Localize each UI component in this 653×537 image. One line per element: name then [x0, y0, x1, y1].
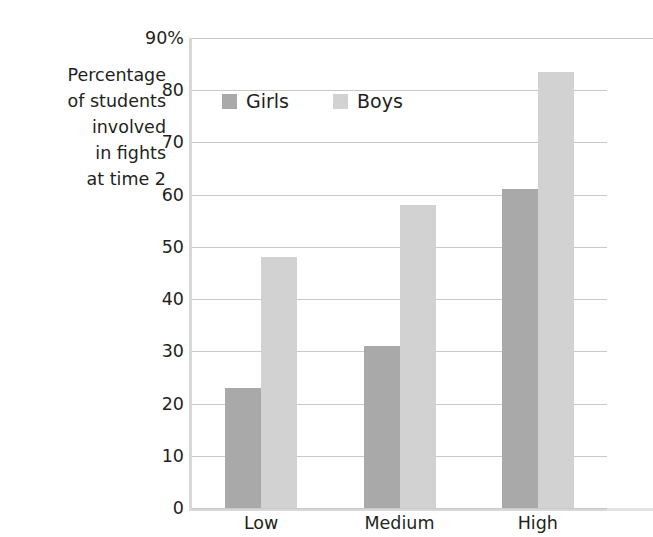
- legend-swatch-icon-boys: [333, 94, 348, 109]
- y-tick-label: 10: [122, 447, 184, 465]
- gridline: [192, 508, 607, 509]
- x-axis-tick-labels: LowMediumHigh: [192, 512, 607, 537]
- bar-medium-boys: [400, 205, 436, 508]
- x-tick-label-medium: Medium: [330, 512, 468, 534]
- y-tick-label: 30: [122, 342, 184, 360]
- bar-low-boys: [261, 257, 297, 508]
- y-tick-label: 0: [122, 499, 184, 517]
- legend-item-boys: Boys: [333, 92, 403, 111]
- legend-label-girls: Girls: [246, 92, 289, 111]
- y-tick-label: 70: [122, 133, 184, 151]
- y-tick-label: 40: [122, 290, 184, 308]
- y-tick-label: 90%: [122, 29, 184, 47]
- y-tick-label: 50: [122, 238, 184, 256]
- bar-medium-girls: [364, 346, 400, 508]
- gridline: [192, 38, 607, 39]
- y-tick-label: 60: [122, 186, 184, 204]
- y-axis-line: [189, 38, 192, 509]
- legend-label-boys: Boys: [357, 92, 403, 111]
- y-tick-label: 20: [122, 395, 184, 413]
- bar-high-boys: [538, 72, 574, 508]
- bar-low-girls: [225, 388, 261, 508]
- axis-bottom-extension: [607, 508, 653, 511]
- y-axis-tick-labels: 0102030405060708090%: [118, 38, 184, 508]
- y-tick-label: 80: [122, 81, 184, 99]
- x-tick-label-high: High: [469, 512, 607, 534]
- x-tick-label-low: Low: [192, 512, 330, 534]
- legend-swatch-icon-girls: [222, 94, 237, 109]
- legend: Girls Boys: [222, 92, 403, 111]
- legend-item-girls: Girls: [222, 92, 289, 111]
- gridline-extension: [607, 38, 653, 39]
- bar-high-girls: [502, 189, 538, 508]
